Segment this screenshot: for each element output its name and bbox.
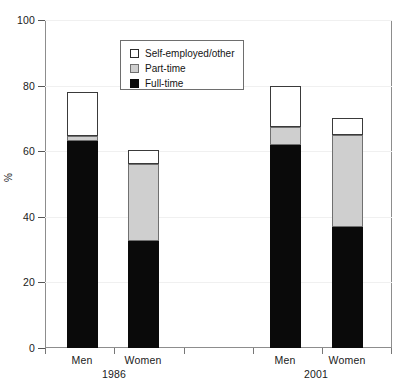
bar-segment-self-employed — [67, 92, 98, 136]
y-tick-60 — [38, 151, 45, 152]
x-tick-5 — [391, 348, 392, 354]
y-tick-20 — [38, 282, 45, 283]
x-axis-group-label-2001: 2001 — [286, 369, 346, 380]
legend-label-part-time: Part-time — [145, 64, 186, 74]
x-tick-3 — [253, 348, 254, 354]
gray-square-icon — [130, 64, 139, 73]
stacked-bar-chart: 100 80 60 40 20 0 % — [0, 0, 403, 380]
x-axis-label-women-1986: Women — [113, 354, 173, 366]
y-axis-label-60: 60 — [3, 146, 35, 157]
y-axis-title: % — [3, 168, 14, 188]
x-axis-group-label-1986: 1986 — [84, 369, 144, 380]
bar-segment-self-employed — [270, 86, 301, 127]
legend-label-full-time: Full-time — [145, 79, 183, 89]
x-axis-label-men-1986: Men — [52, 354, 112, 366]
bar-segment-full-time — [128, 241, 159, 348]
bar-segment-self-employed — [128, 150, 159, 165]
gridline-100 — [45, 20, 392, 21]
y-tick-40 — [38, 217, 45, 218]
y-axis-label-40: 40 — [3, 212, 35, 223]
y-axis-label-100: 100 — [3, 15, 35, 26]
bar-segment-part-time — [332, 135, 363, 227]
bar-segment-full-time — [67, 141, 98, 348]
y-axis-label-80: 80 — [3, 81, 35, 92]
bar-segment-full-time — [270, 145, 301, 348]
bar-segment-self-employed — [332, 118, 363, 134]
y-tick-80 — [38, 86, 45, 87]
legend-label-self-employed: Self-employed/other — [145, 49, 235, 59]
white-square-icon — [130, 49, 139, 58]
y-axis-label-0: 0 — [3, 343, 35, 354]
legend-item-full-time[interactable]: Full-time — [130, 77, 243, 90]
chart-legend: Self-employed/other Part-time Full-time — [120, 40, 244, 90]
x-axis-label-women-2001: Women — [317, 354, 377, 366]
black-square-icon — [130, 79, 139, 88]
y-tick-100 — [38, 20, 45, 21]
legend-item-part-time[interactable]: Part-time — [130, 62, 243, 75]
x-tick-2 — [184, 348, 185, 354]
bar-segment-part-time — [128, 164, 159, 241]
bar-segment-part-time — [270, 127, 301, 145]
y-axis-label-20: 20 — [3, 277, 35, 288]
legend-item-self-employed[interactable]: Self-employed/other — [130, 47, 243, 60]
x-tick-0 — [45, 348, 46, 354]
y-tick-0 — [38, 348, 45, 349]
bar-segment-full-time — [332, 227, 363, 348]
x-axis-label-men-2001: Men — [255, 354, 315, 366]
